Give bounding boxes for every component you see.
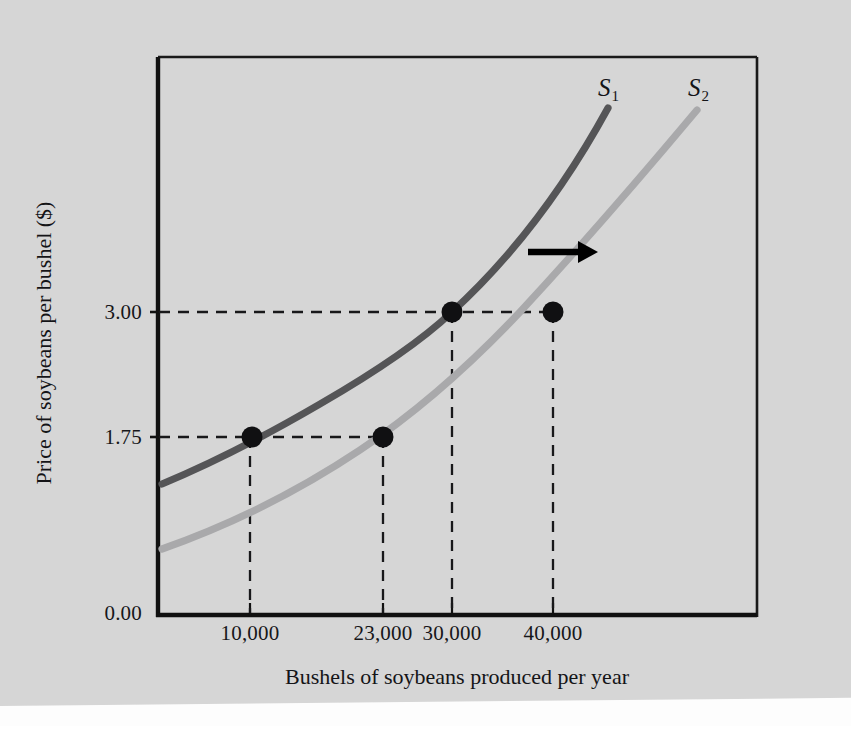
marker-s1-at-3.00 [442,302,463,323]
marker-s2-at-1.75 [373,427,394,448]
x-tick-label-40000: 40,000 [495,621,611,646]
curve-label-s1-subscript: 1 [612,88,620,104]
shift-arrow-head [578,241,598,263]
curve-label-s1: S1 [598,74,618,102]
curve-label-s2-subscript: 2 [702,88,710,104]
marker-s1-at-1.75 [242,427,263,448]
curve-label-s2: S2 [688,74,708,102]
figure-container: 3.00 1.75 0.00 10,000 23,000 30,000 40,0… [0,0,851,742]
y-tick-label-3.00: 3.00 [52,300,142,325]
page-edge-white [0,726,851,742]
y-axis-title: Price of soybeans per bushel ($) [31,178,57,508]
curve-label-s2-text: S [688,74,701,101]
marker-s2-at-3.00 [543,302,564,323]
x-tick-label-30000: 30,000 [394,621,510,646]
curve-label-s1-text: S [598,74,611,101]
y-tick-label-1.75: 1.75 [52,425,142,450]
y-tick-label-0.00: 0.00 [52,601,142,626]
x-axis-title: Bushels of soybeans produced per year [157,664,757,690]
marker-dots [242,302,564,448]
x-tick-label-10000: 10,000 [190,621,310,646]
